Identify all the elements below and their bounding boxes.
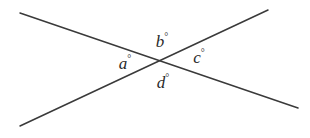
angle-letter-b: b [156, 32, 165, 51]
angle-label-a: a° [119, 54, 132, 72]
degree-symbol-d: ° [165, 72, 169, 83]
angle-label-d: d° [157, 73, 170, 91]
degree-symbol-b: ° [164, 31, 168, 42]
angle-diagram-figure: a° b° c° d° [0, 0, 310, 138]
angle-letter-a: a [119, 54, 128, 73]
diagram-background [0, 0, 310, 138]
angle-letter-c: c [193, 48, 201, 67]
angle-label-b: b° [156, 32, 169, 50]
angle-label-c: c° [193, 48, 205, 66]
angle-letter-d: d [157, 73, 166, 92]
degree-symbol-c: ° [201, 47, 205, 58]
degree-symbol-a: ° [127, 53, 131, 64]
diagram-canvas [0, 0, 310, 138]
